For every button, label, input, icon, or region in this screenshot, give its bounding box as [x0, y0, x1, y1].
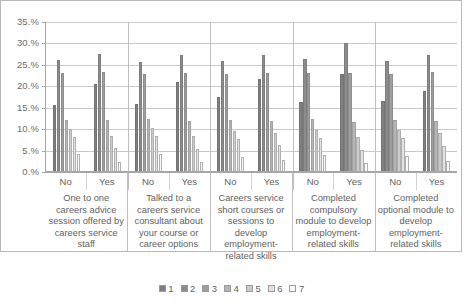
axis-label-yes: Yes: [86, 173, 127, 190]
question-title: One to one careers advice session offere…: [45, 190, 127, 252]
plot-area: [45, 22, 457, 172]
bar: [352, 122, 355, 172]
legend-item[interactable]: 5: [246, 283, 261, 294]
bar: [340, 74, 343, 172]
bar: [188, 121, 191, 172]
bar: [180, 55, 183, 172]
legend-item[interactable]: 4: [224, 283, 239, 294]
question-title: Completed optional module to develop emp…: [375, 190, 457, 252]
bar-subgroup-no: [293, 22, 334, 172]
bar: [303, 59, 306, 172]
bar: [360, 150, 363, 172]
legend-swatch-icon: [268, 285, 275, 292]
legend-item[interactable]: 6: [268, 283, 283, 294]
legend-label: 6: [277, 283, 282, 294]
y-axis-tick-label: 5.%: [22, 146, 39, 156]
bar: [434, 121, 437, 172]
bar-chart: 0.%5.%10.%15.%20.%25.%30.%35.% NoYesNoYe…: [0, 0, 463, 307]
bar-subgroup-no: [210, 22, 251, 172]
bar: [114, 148, 117, 172]
bar-subgroup-yes: [87, 22, 128, 172]
bar: [389, 74, 392, 172]
bar: [151, 128, 154, 172]
bar: [143, 74, 146, 172]
legend-swatch-icon: [289, 285, 296, 292]
legend-item[interactable]: 2: [181, 283, 196, 294]
question-group: [210, 22, 292, 172]
bar: [315, 130, 318, 172]
legend-item[interactable]: 1: [159, 283, 174, 294]
question-group: [375, 22, 457, 172]
bar: [274, 133, 277, 172]
bar: [184, 73, 187, 172]
bar-subgroup-yes: [416, 22, 457, 172]
bar: [61, 73, 64, 172]
bar: [53, 105, 56, 172]
bar: [217, 97, 220, 172]
legend-label: 3: [212, 283, 217, 294]
axis-label-no: No: [292, 173, 333, 190]
axis-label-no: No: [375, 173, 416, 190]
bar: [344, 43, 347, 172]
axis-label-no: No: [210, 173, 251, 190]
question-axis-cell: NoYes: [292, 173, 374, 190]
bar: [442, 146, 445, 172]
legend-item[interactable]: 3: [202, 283, 217, 294]
bar: [147, 119, 150, 172]
bar-subgroup-no: [46, 22, 87, 172]
legend-label: 4: [234, 283, 239, 294]
bar: [139, 62, 142, 172]
question-axis-cell: NoYes: [45, 173, 127, 190]
bar: [98, 54, 101, 172]
question-labels: One to one careers advice session offere…: [45, 190, 457, 252]
yes-no-axis: NoYesNoYesNoYesNoYesNoYes: [45, 172, 457, 190]
y-axis-tick-label: 25.%: [17, 60, 39, 70]
legend-label: 2: [190, 283, 195, 294]
legend-label: 1: [168, 283, 173, 294]
bar: [393, 120, 396, 172]
bar: [241, 157, 244, 172]
bar: [237, 139, 240, 172]
bar: [73, 137, 76, 172]
bar: [319, 138, 322, 172]
bar: [438, 133, 441, 172]
bar: [311, 119, 314, 172]
axis-label-yes: Yes: [169, 173, 210, 190]
bar-subgroup-no: [128, 22, 169, 172]
bar: [65, 120, 68, 172]
legend-label: 5: [255, 283, 260, 294]
question-axis-cell: NoYes: [210, 173, 292, 190]
bar: [110, 136, 113, 172]
axis-label-yes: Yes: [251, 173, 292, 190]
axis-label-yes: Yes: [333, 173, 374, 190]
y-axis-tick-label: 15.%: [17, 103, 39, 113]
bar: [159, 154, 162, 172]
legend-swatch-icon: [159, 285, 166, 292]
bar: [221, 61, 224, 172]
bar: [106, 120, 109, 172]
bar-groups: [46, 22, 457, 172]
bar: [381, 101, 384, 172]
bar: [192, 136, 195, 172]
plot-area-wrapper: 0.%5.%10.%15.%20.%25.%30.%35.%: [0, 0, 463, 190]
bar: [155, 136, 158, 172]
legend-item[interactable]: 7: [289, 283, 304, 294]
legend-swatch-icon: [181, 285, 188, 292]
bar: [94, 84, 97, 172]
bar-subgroup-no: [375, 22, 416, 172]
bar: [229, 120, 232, 172]
legend-swatch-icon: [224, 285, 231, 292]
question-title: Careers service short courses or session…: [210, 190, 292, 252]
chart-legend: 1234567: [0, 280, 463, 296]
question-group: [46, 22, 128, 172]
bar: [266, 73, 269, 172]
bar-subgroup-yes: [169, 22, 210, 172]
y-axis-tick-label: 20.%: [17, 81, 39, 91]
bar: [57, 60, 60, 172]
bar: [69, 129, 72, 172]
bar: [233, 131, 236, 172]
bar: [405, 156, 408, 172]
axis-label-no: No: [45, 173, 86, 190]
question-title: Talked to a careers service consultant a…: [127, 190, 209, 252]
bar-subgroup-yes: [252, 22, 293, 172]
